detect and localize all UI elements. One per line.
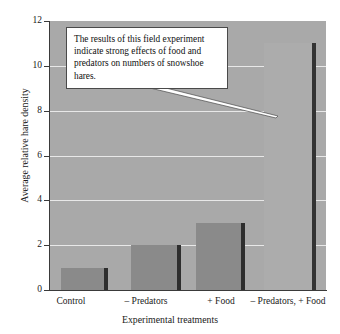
y-tick-mark-8 [44,111,49,112]
y-tick-mark-4 [44,200,49,201]
bar-face [196,223,245,290]
x-axis-title: Experimental treatments [0,314,340,325]
x-tick-label-minus-predators-plus-food: – Predators, + Food [236,296,340,306]
y-axis-line [49,21,50,291]
bar-side-face [312,43,316,290]
x-tick-label-control: Control [36,296,106,306]
bar-face [264,43,316,290]
y-tick-label-12: 12 [22,16,42,26]
bar-control[interactable] [61,268,108,290]
bar-face [61,268,108,290]
annotation-text: The results of this field experiment ind… [74,33,220,82]
bar-side-face [177,245,181,290]
y-tick-mark-0 [44,290,49,291]
bar-side-face [241,223,245,290]
annotation-callout: The results of this field experiment ind… [66,27,228,89]
y-tick-mark-12 [44,21,49,22]
bar-chart-figure: 0 2 4 6 8 10 12 The results of this fiel… [0,0,340,334]
x-tick-label-minus-predators: – Predators [111,296,181,306]
bar-face [131,245,181,290]
bar-side-face [104,268,108,290]
y-tick-label-0: 0 [22,285,42,295]
bar-plus-food[interactable] [196,223,245,290]
y-tick-mark-6 [44,156,49,157]
callout-pointer [150,84,278,118]
y-tick-label-2: 2 [22,240,42,250]
x-axis-line [49,290,327,291]
bar-minus-predators-plus-food[interactable] [264,43,316,290]
y-tick-mark-10 [44,66,49,67]
y-tick-mark-2 [44,245,49,246]
y-axis-title: Average relative hare density [19,56,30,236]
bar-minus-predators[interactable] [131,245,181,290]
